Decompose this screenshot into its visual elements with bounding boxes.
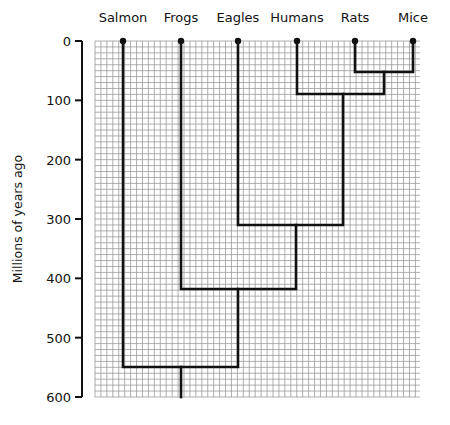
y-tick-label: 0	[63, 34, 71, 49]
tip-node-humans	[294, 38, 300, 44]
y-tick-label: 400	[46, 271, 71, 286]
y-axis: 0100200300400500600	[46, 34, 82, 405]
y-tick-label: 500	[46, 331, 71, 346]
tip-node-frogs	[178, 38, 184, 44]
tip-node-rats	[352, 38, 358, 44]
taxon-label-salmon: Salmon	[99, 10, 148, 25]
y-tick-label: 300	[46, 212, 71, 227]
tip-node-mice	[410, 38, 416, 44]
taxon-label-eagles: Eagles	[217, 10, 260, 25]
taxon-label-frogs: Frogs	[164, 10, 199, 25]
y-tick-label: 600	[46, 390, 71, 405]
y-tick-label: 100	[46, 93, 71, 108]
taxon-label-rats: Rats	[341, 10, 370, 25]
y-axis-label: Millions of years ago	[10, 155, 25, 283]
branch-rats-mice	[355, 41, 413, 72]
branch-humans-rodents	[297, 41, 384, 94]
taxon-labels: Salmon Frogs Eagles Humans Rats Mice	[99, 10, 428, 25]
tip-node-eagles	[235, 38, 241, 44]
taxon-label-mice: Mice	[398, 10, 428, 25]
phylogenetic-tree-diagram: 0100200300400500600 Millions of years ag…	[0, 0, 450, 425]
taxon-label-humans: Humans	[270, 10, 324, 25]
tip-node-salmon	[120, 38, 126, 44]
y-tick-label: 200	[46, 153, 71, 168]
